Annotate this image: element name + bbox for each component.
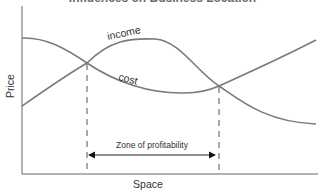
y-axis-label: Price xyxy=(4,74,16,98)
diagram-canvas: income cost Zone of profitability Space … xyxy=(0,0,325,191)
x-axis-label: Space xyxy=(133,178,163,190)
arrowhead-left-icon xyxy=(88,152,95,159)
zone-of-profitability-label: Zone of profitability xyxy=(116,140,189,150)
income-curve xyxy=(22,38,316,124)
location-profitability-diagram: Influences on Business Location income c… xyxy=(0,0,325,191)
arrowhead-right-icon xyxy=(209,152,216,159)
cost-label: cost xyxy=(118,70,140,86)
